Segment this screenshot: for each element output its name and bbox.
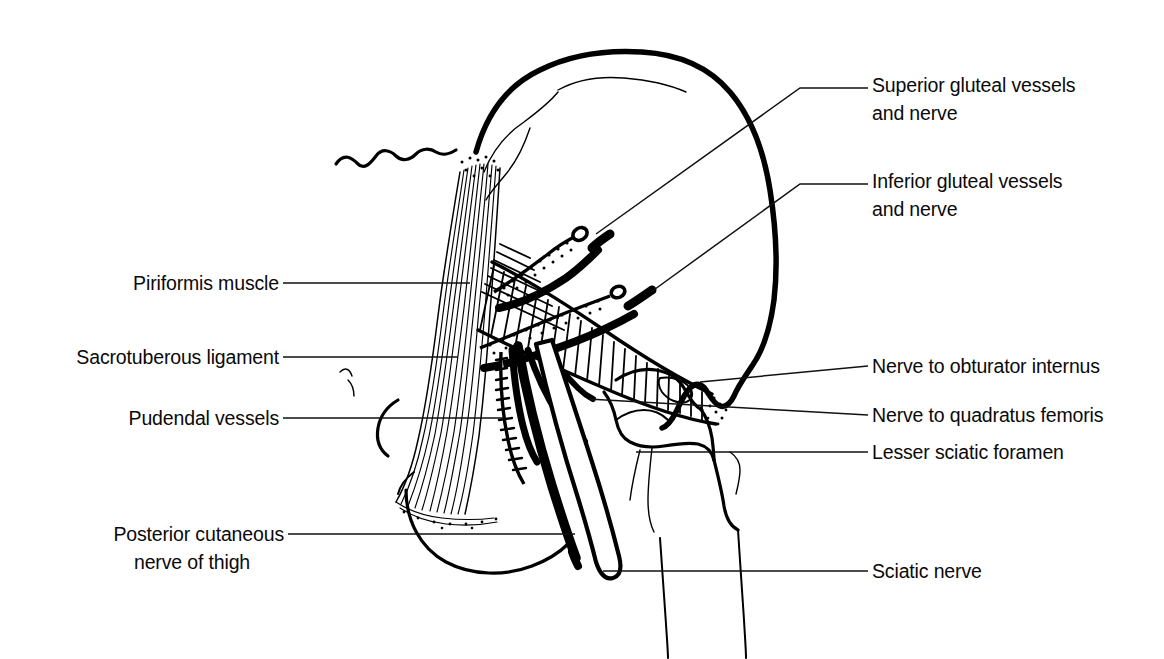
label-superior-gluteal-line1: Superior gluteal vessels	[872, 74, 1076, 96]
label-piriformis-muscle: Piriformis muscle	[133, 272, 279, 294]
label-pudendal-vessels: Pudendal vessels	[129, 407, 280, 429]
label-superior-gluteal-line2: and nerve	[872, 102, 957, 124]
label-lesser-sciatic-foramen: Lesser sciatic foramen	[872, 441, 1064, 463]
label-sciatic-nerve: Sciatic nerve	[872, 560, 982, 582]
label-sacrotuberous-ligament: Sacrotuberous ligament	[76, 346, 279, 368]
anatomy-figure: Superior gluteal vessels and nerve Infer…	[0, 0, 1164, 659]
label-inferior-gluteal-line2: and nerve	[872, 198, 957, 220]
anatomy-illustration: Superior gluteal vessels and nerve Infer…	[0, 0, 1164, 659]
label-posterior-cutaneous-nerve-line1: Posterior cutaneous	[113, 523, 284, 545]
label-inferior-gluteal-line1: Inferior gluteal vessels	[872, 170, 1063, 192]
label-nerve-to-quadratus-femoris: Nerve to quadratus femoris	[872, 404, 1104, 426]
label-posterior-cutaneous-nerve-line2: nerve of thigh	[134, 551, 250, 573]
label-nerve-to-obturator-internus: Nerve to obturator internus	[872, 355, 1100, 377]
